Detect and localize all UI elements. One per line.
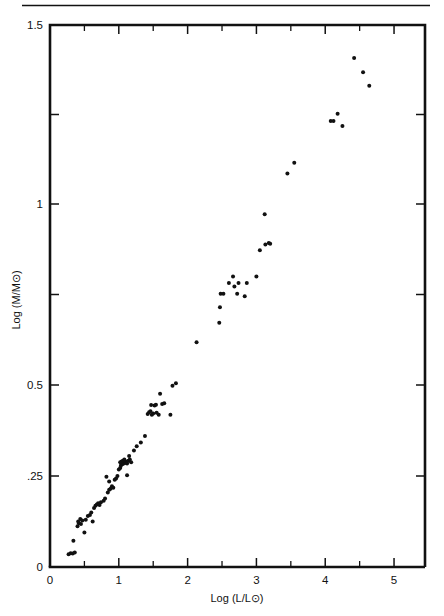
y-tick-label: 0	[37, 561, 43, 573]
data-point	[125, 473, 129, 477]
data-point	[367, 84, 371, 88]
y-axis-title: Log (M/M⊙)	[10, 270, 22, 329]
data-point	[154, 403, 158, 407]
data-point	[151, 411, 155, 415]
data-point	[143, 434, 147, 438]
data-point	[352, 56, 356, 60]
data-point	[115, 474, 119, 478]
y-tick-label: 0.5	[27, 379, 43, 391]
data-point	[268, 242, 272, 246]
data-point	[227, 281, 231, 285]
data-point	[254, 274, 258, 278]
data-point	[361, 70, 365, 74]
data-point	[221, 292, 225, 296]
data-point	[258, 248, 262, 252]
data-point	[285, 172, 289, 176]
x-tick-label: 0	[47, 574, 53, 586]
data-point	[135, 444, 139, 448]
data-point	[104, 475, 108, 479]
data-point	[132, 449, 136, 453]
data-point	[91, 520, 95, 524]
data-point	[162, 401, 166, 405]
plot-frame	[49, 25, 425, 567]
data-point	[217, 321, 221, 325]
axis-ticks	[50, 25, 425, 567]
data-point	[231, 274, 235, 278]
figure-container: 012345 0.250.511.5 Log (L/L⊙) Log (M/M⊙)	[0, 0, 444, 616]
data-point	[149, 403, 153, 407]
data-points	[67, 56, 372, 556]
data-point	[127, 454, 131, 458]
data-point	[107, 479, 111, 483]
data-point	[111, 486, 115, 490]
data-point	[195, 340, 199, 344]
data-point	[118, 460, 122, 464]
data-point	[170, 384, 174, 388]
data-point	[340, 124, 344, 128]
data-point	[168, 413, 172, 417]
data-point	[157, 413, 161, 417]
y-tick-label: 1	[37, 198, 43, 210]
data-point	[158, 392, 162, 396]
data-point	[76, 520, 80, 524]
y-axis-tick-labels: 0.250.511.5	[27, 19, 43, 573]
data-point	[336, 112, 340, 116]
x-tick-label: 5	[391, 574, 397, 586]
data-point	[89, 510, 93, 514]
data-point	[232, 285, 236, 289]
y-tick-label: 1.5	[27, 19, 43, 31]
x-tick-label: 2	[184, 574, 190, 586]
scatter-plot: 012345 0.250.511.5 Log (L/L⊙) Log (M/M⊙)	[0, 0, 444, 616]
data-point	[218, 305, 222, 309]
data-point	[292, 161, 296, 165]
x-tick-label: 4	[322, 574, 329, 586]
data-point	[139, 441, 143, 445]
y-tick-label: .25	[27, 470, 43, 482]
data-point	[71, 539, 75, 543]
data-point	[103, 497, 107, 501]
data-point	[243, 294, 247, 298]
data-point	[80, 518, 84, 522]
data-point	[235, 292, 239, 296]
data-point	[245, 281, 249, 285]
x-axis-tick-labels: 012345	[47, 574, 397, 586]
data-point	[129, 460, 133, 464]
x-axis-title: Log (L/L⊙)	[210, 592, 263, 604]
data-point	[331, 119, 335, 123]
data-point	[237, 281, 241, 285]
x-tick-label: 3	[253, 574, 259, 586]
data-point	[174, 381, 178, 385]
data-point	[263, 243, 267, 247]
x-tick-label: 1	[116, 574, 122, 586]
data-point	[84, 518, 88, 522]
data-point	[263, 212, 267, 216]
data-point	[82, 530, 86, 534]
data-point	[73, 550, 77, 554]
